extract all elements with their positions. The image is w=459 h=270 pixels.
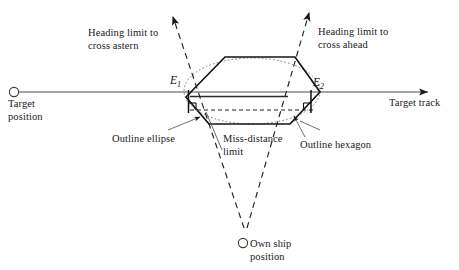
label-miss-distance-limit: Miss-distance limit [223,133,283,158]
label-target-position: Target position [8,98,43,123]
miss-distance-limit-leader [206,112,222,150]
label-outline-ellipse: Outline ellipse [112,133,175,146]
outline-ellipse-leader [168,117,200,130]
label-e2-letter: E [313,76,320,88]
heading-limit-cross-ahead-line [247,13,309,228]
outline-hexagon-leader-stub [300,121,320,130]
own-ship-position-marker [238,238,247,247]
target-position-marker [9,87,18,96]
label-outline-hexagon: Outline hexagon [300,139,371,152]
collision-avoidance-diagram: Heading limit to cross astern Heading li… [0,0,459,270]
label-e2: E2 [313,76,324,93]
label-own-ship-position: Own ship position [250,238,291,263]
label-target-track: Target track [389,97,440,110]
label-e1: E1 [170,74,181,91]
label-heading-limit-cross-ahead: Heading limit to cross ahead [318,26,388,51]
label-e2-subscript: 2 [320,82,324,91]
outline-hexagon-leader [294,116,305,137]
label-e1-letter: E [170,74,177,86]
label-heading-limit-cross-astern: Heading limit to cross astern [88,27,158,52]
label-e1-subscript: 1 [177,80,181,89]
